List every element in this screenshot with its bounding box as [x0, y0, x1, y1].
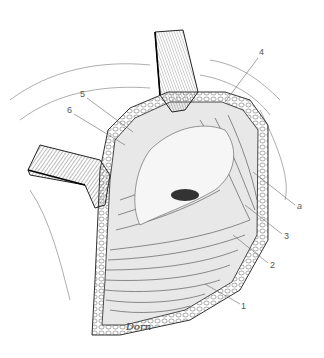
illustration-drawing	[0, 0, 324, 358]
label-2: 2	[270, 261, 275, 270]
label-4: 4	[259, 48, 264, 57]
anatomical-illustration: 1 2 3 a 4 5 6 Dorn	[0, 0, 324, 358]
label-a: a	[297, 202, 302, 211]
deep-cavity	[171, 189, 199, 201]
label-6: 6	[67, 106, 72, 115]
artist-signature: Dorn	[126, 321, 151, 332]
left-retractor	[28, 145, 110, 208]
label-5: 5	[80, 90, 85, 99]
label-3: 3	[284, 232, 289, 241]
label-1: 1	[241, 302, 246, 311]
